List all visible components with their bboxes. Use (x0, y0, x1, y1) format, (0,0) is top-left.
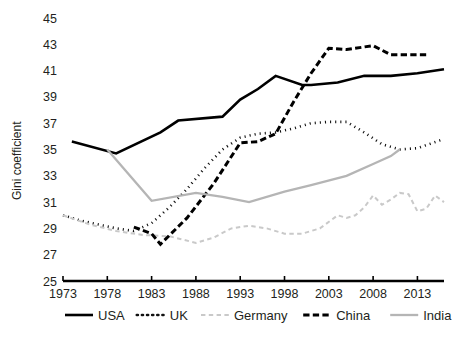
y-tick-label: 33 (43, 169, 57, 183)
x-tick-label: 1988 (182, 287, 210, 301)
chart-legend: USAUKGermanyChinaIndia (65, 308, 452, 323)
series-line-uk (63, 122, 444, 231)
x-tick-label: 2008 (359, 287, 387, 301)
chart-canvas: Gini coefficient 2527293133353739414345 … (0, 0, 454, 337)
x-tick-label: 1978 (93, 287, 121, 301)
legend-label-germany[interactable]: Germany (234, 308, 288, 323)
y-tick-label: 27 (43, 248, 57, 262)
legend-label-india[interactable]: India (423, 308, 452, 323)
x-axis-tick-labels: 197319781983198819931998200320082013 (49, 287, 431, 301)
y-tick-label: 43 (43, 38, 57, 52)
legend-label-usa[interactable]: USA (98, 308, 125, 323)
y-tick-label: 37 (43, 117, 57, 131)
x-tick-label: 1973 (49, 287, 77, 301)
x-tick-label: 1998 (271, 287, 299, 301)
x-tick-label: 1993 (226, 287, 254, 301)
legend-label-uk[interactable]: UK (170, 308, 188, 323)
x-tick-label: 1983 (138, 287, 166, 301)
series-line-usa (72, 69, 444, 153)
legend-label-china[interactable]: China (336, 308, 371, 323)
y-tick-label: 31 (43, 196, 57, 210)
y-tick-label: 39 (43, 90, 57, 104)
series-line-india (107, 150, 399, 203)
y-tick-label: 29 (43, 222, 57, 236)
x-tick-label: 2003 (315, 287, 343, 301)
y-axis-title: Gini coefficient (10, 121, 24, 200)
x-axis-line (63, 276, 444, 281)
y-axis-title-label: Gini coefficient (10, 121, 24, 200)
y-tick-label: 35 (43, 143, 57, 157)
gini-coefficient-line-chart: Gini coefficient 2527293133353739414345 … (0, 0, 454, 337)
y-tick-label: 45 (43, 12, 57, 26)
y-axis-tick-labels: 2527293133353739414345 (43, 12, 57, 289)
y-tick-label: 41 (43, 64, 57, 78)
series-lines (63, 46, 444, 245)
x-tick-label: 2013 (404, 287, 432, 301)
